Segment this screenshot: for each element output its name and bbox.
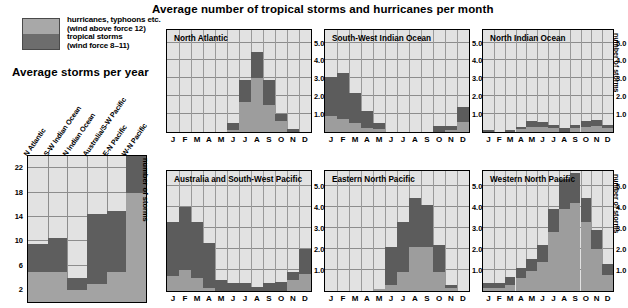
- bar: [457, 107, 469, 132]
- bar: [445, 126, 457, 132]
- gridline-x: [581, 30, 582, 132]
- legend-swatch-hurricanes: [23, 19, 59, 34]
- month-tick: A: [409, 294, 421, 303]
- bar-segment-tropical: [537, 245, 548, 262]
- bar-segment-tropical: [433, 126, 445, 132]
- gridline-x: [494, 171, 495, 291]
- month-tick: J: [227, 135, 239, 144]
- gridline-x: [457, 171, 458, 291]
- bar: [409, 198, 421, 291]
- bar-segment-tropical: [570, 125, 581, 129]
- bar-segment-tropical: [385, 247, 397, 285]
- bar-segment-hurricanes: [581, 127, 592, 132]
- gridline-x: [591, 30, 592, 132]
- bar: [215, 280, 227, 291]
- year-chart-y-tick: 2: [3, 285, 23, 294]
- gridline-x: [361, 171, 362, 291]
- plot-area-western-north-pacific: Western North Pacific: [482, 170, 614, 292]
- year-chart-bar: [48, 238, 68, 302]
- bar-segment-tropical: [581, 121, 592, 126]
- year-chart-bar: [28, 244, 48, 302]
- bar: [559, 179, 570, 291]
- y-tick: 1.0: [314, 110, 324, 119]
- month-tick: A: [516, 294, 527, 303]
- bar-segment-hurricanes: [385, 285, 397, 291]
- bar-segment-hurricanes: [203, 288, 215, 291]
- bar: [516, 268, 527, 291]
- bar-segment-tropical: [251, 287, 263, 291]
- month-tick: M: [505, 294, 516, 303]
- bar-segment-hurricanes: [591, 249, 602, 291]
- year-chart-bar-segment-hurricanes: [87, 284, 107, 302]
- bar-segment-tropical: [602, 264, 613, 276]
- bar-segment-tropical: [275, 114, 287, 121]
- bar-segment-hurricanes: [373, 289, 385, 291]
- month-tick: J: [537, 294, 548, 303]
- bar: [581, 198, 592, 291]
- month-tick: J: [537, 135, 548, 144]
- bar: [526, 121, 537, 132]
- bar-segment-hurricanes: [526, 127, 537, 132]
- bar-segment-hurricanes: [325, 116, 337, 132]
- bar: [337, 73, 349, 132]
- month-tick: M: [526, 135, 537, 144]
- y-tick: 2.0: [314, 92, 324, 101]
- month-tick: A: [361, 135, 373, 144]
- bar-segment-tropical: [559, 128, 570, 132]
- bar: [581, 121, 592, 132]
- year-chart-bar-segment-hurricanes: [28, 272, 48, 302]
- bar-segment-tropical: [457, 107, 469, 122]
- bar-segment-tropical: [548, 209, 559, 232]
- bar: [516, 127, 527, 132]
- bar-segment-tropical: [602, 125, 613, 129]
- bar-segment-hurricanes: [516, 129, 527, 132]
- panel-title: Australia and South-West Pacific: [174, 175, 302, 184]
- bar: [275, 114, 287, 132]
- year-chart-bar-segment-hurricanes: [48, 272, 68, 302]
- gridline-x: [373, 171, 374, 291]
- month-tick: M: [215, 294, 227, 303]
- bar-segment-hurricanes: [239, 102, 251, 132]
- bar-segment-hurricanes: [581, 222, 592, 291]
- bar: [602, 264, 613, 291]
- bar-segment-hurricanes: [591, 126, 602, 132]
- y-tick: 3.0: [314, 224, 324, 233]
- month-tick: F: [337, 294, 349, 303]
- bar: [537, 122, 548, 132]
- y-tick: 3.0: [472, 224, 482, 233]
- bar: [559, 128, 570, 132]
- bar: [602, 125, 613, 132]
- bar-segment-hurricanes: [602, 275, 613, 291]
- month-tick: O: [275, 294, 287, 303]
- year-chart-bar-segment-tropical: [107, 211, 127, 272]
- plot-area-north-atlantic: North Atlantic: [166, 29, 312, 133]
- bar-segment-hurricanes: [445, 288, 457, 291]
- panel-title: Western North Pacific: [490, 175, 575, 184]
- bar-segment-hurricanes: [483, 288, 494, 291]
- gridline-x: [287, 30, 288, 132]
- month-tick: A: [409, 135, 421, 144]
- bar: [505, 130, 516, 132]
- plot-area-north-indian-ocean: North Indian Ocean: [482, 29, 614, 133]
- bar: [227, 123, 239, 132]
- bar: [421, 205, 433, 291]
- gridline-x: [385, 30, 386, 132]
- month-tick: J: [483, 135, 494, 144]
- bar: [251, 287, 263, 291]
- bar: [179, 207, 191, 291]
- bar-segment-hurricanes: [433, 272, 445, 291]
- gridline-x: [349, 171, 350, 291]
- month-tick: O: [581, 294, 592, 303]
- bar-segment-hurricanes: [445, 130, 457, 132]
- gridline-x: [215, 30, 216, 132]
- bar: [251, 51, 263, 132]
- month-tick: D: [602, 135, 613, 144]
- year-chart-y-tick: 6: [3, 261, 23, 270]
- gridline-x: [526, 30, 527, 132]
- bar-segment-tropical: [299, 249, 311, 274]
- gridline-x: [299, 30, 300, 132]
- panel-north-atlantic: North Atlantic1.02.03.04.05.0JFMAMJJASON…: [166, 29, 312, 147]
- bar: [445, 285, 457, 291]
- y-tick: 1.0: [616, 266, 626, 275]
- y-tick: 4.0: [314, 203, 324, 212]
